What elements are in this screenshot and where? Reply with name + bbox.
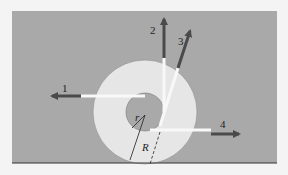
outer-radius-label: R [141,141,149,153]
force-2-label: 2 [150,24,156,36]
yo-yo-force-diagram: 1 2 3 4 r R [0,0,288,175]
inner-disk [126,93,164,131]
force-3-label: 3 [178,35,184,47]
inner-radius-label: r [135,111,140,123]
force-4-label: 4 [220,118,226,130]
force-1-label: 1 [62,82,68,94]
